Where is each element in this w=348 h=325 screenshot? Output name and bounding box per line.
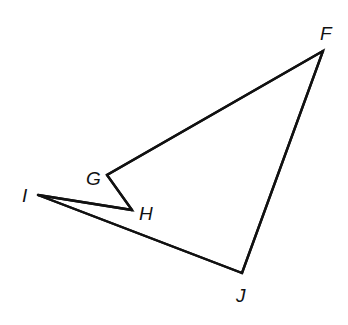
edge-JF <box>242 51 323 273</box>
vertex-label-F: F <box>320 23 333 44</box>
vertex-label-G: G <box>86 168 101 189</box>
edge-HI <box>38 195 132 210</box>
polygon-diagram: F G H I J <box>0 0 348 325</box>
edge-GH <box>107 175 132 210</box>
vertex-label-H: H <box>139 203 153 224</box>
vertex-label-I: I <box>22 185 28 206</box>
edge-FG <box>107 51 323 175</box>
polygon-outline <box>38 51 323 273</box>
vertex-label-J: J <box>235 285 246 306</box>
